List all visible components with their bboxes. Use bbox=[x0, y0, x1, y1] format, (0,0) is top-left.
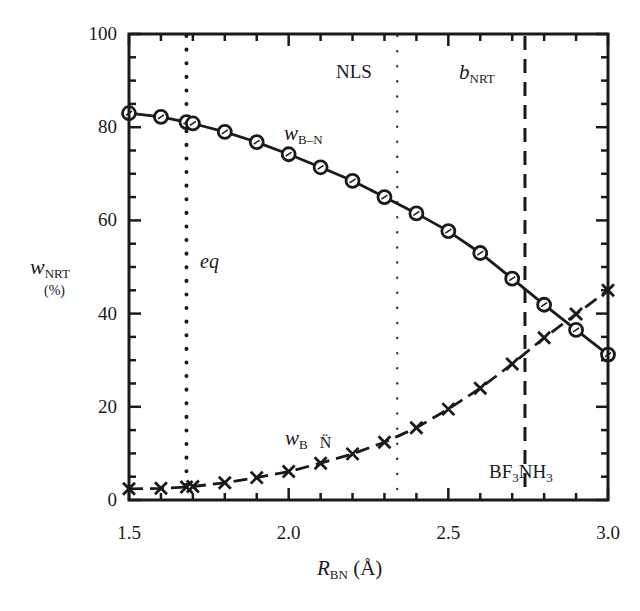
y-tick-label: 100 bbox=[67, 24, 117, 43]
y-tick-label: 0 bbox=[67, 490, 117, 509]
series-line-0 bbox=[129, 113, 608, 354]
series-line-1 bbox=[129, 290, 608, 489]
nls-label: NLS bbox=[336, 62, 372, 81]
data-series bbox=[123, 107, 615, 495]
x-axis-title: RBN (Å) bbox=[317, 558, 382, 581]
y-tick-label: 80 bbox=[67, 117, 117, 136]
w-b-lonepair-n-label: wBN̈ bbox=[285, 428, 331, 451]
y-tick-label: 40 bbox=[67, 304, 117, 323]
x-marker bbox=[474, 382, 486, 394]
bf3nh3-label: BF3NH3 bbox=[489, 462, 553, 484]
y-axis-title: wNRT bbox=[30, 256, 70, 280]
y-tick-label: 60 bbox=[67, 210, 117, 229]
y-tick-label: 20 bbox=[67, 397, 117, 416]
x-tick-label: 1.5 bbox=[99, 523, 159, 542]
w-b-n-bond-label: wB–N bbox=[284, 123, 323, 146]
x-marker bbox=[570, 308, 582, 320]
x-marker bbox=[378, 436, 390, 448]
x-marker bbox=[410, 422, 422, 434]
x-marker bbox=[538, 332, 550, 344]
eq-label: eq bbox=[200, 251, 219, 271]
x-marker bbox=[442, 403, 454, 415]
x-tick-label: 2.5 bbox=[418, 523, 478, 542]
x-tick-label: 2.0 bbox=[259, 523, 319, 542]
reference-lines bbox=[186, 36, 524, 496]
bnrt-label: bNRT bbox=[459, 62, 495, 85]
x-tick-label: 3.0 bbox=[578, 523, 638, 542]
y-axis-unit: (%) bbox=[44, 284, 65, 298]
x-marker bbox=[506, 358, 518, 370]
